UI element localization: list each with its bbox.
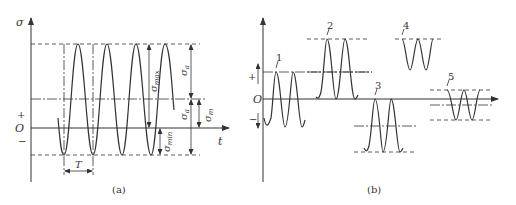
curve-1-label: 1 (276, 52, 282, 63)
curve-2-waveform (316, 39, 358, 99)
plus-label-b: + (248, 71, 256, 82)
sigma-min-label: σmin (161, 131, 174, 152)
caption-b: (b) (367, 184, 381, 195)
sigma-a-upper-label: σa (178, 65, 191, 76)
origin-label: O (15, 122, 24, 135)
curve-3-waveform (364, 99, 403, 152)
curve-4-label: 4 (403, 20, 409, 31)
caption-a: (a) (112, 184, 126, 195)
svg-text:σm: σm (202, 108, 215, 122)
svg-text:σmin: σmin (161, 131, 174, 152)
origin-label-b: O (253, 93, 262, 106)
svg-text:σa: σa (178, 109, 191, 120)
curve-5-label: 5 (448, 71, 454, 82)
panel-b: O + − 1 2 3 4 5 (248, 18, 498, 195)
stress-cycle-diagram: σ t O + − T (a) σmax σmin (0, 0, 516, 205)
sigma-m-label: σm (202, 108, 215, 122)
minus-label-b: − (249, 114, 257, 125)
panel-a: σ t O + − T (a) σmax σmin (15, 16, 229, 195)
curve-4-waveform (402, 39, 433, 70)
sigma-a-lower-label: σa (178, 109, 191, 120)
stress-waveform (58, 44, 174, 155)
svg-text:σa: σa (178, 65, 191, 76)
sigma-axis-label: σ (16, 16, 24, 29)
curve-3-label: 3 (375, 80, 381, 91)
minus-label: − (18, 136, 26, 147)
period-label: T (75, 159, 83, 170)
time-axis-label: t (218, 135, 223, 148)
plus-label: + (17, 109, 25, 120)
curve-2-label: 2 (327, 20, 333, 31)
